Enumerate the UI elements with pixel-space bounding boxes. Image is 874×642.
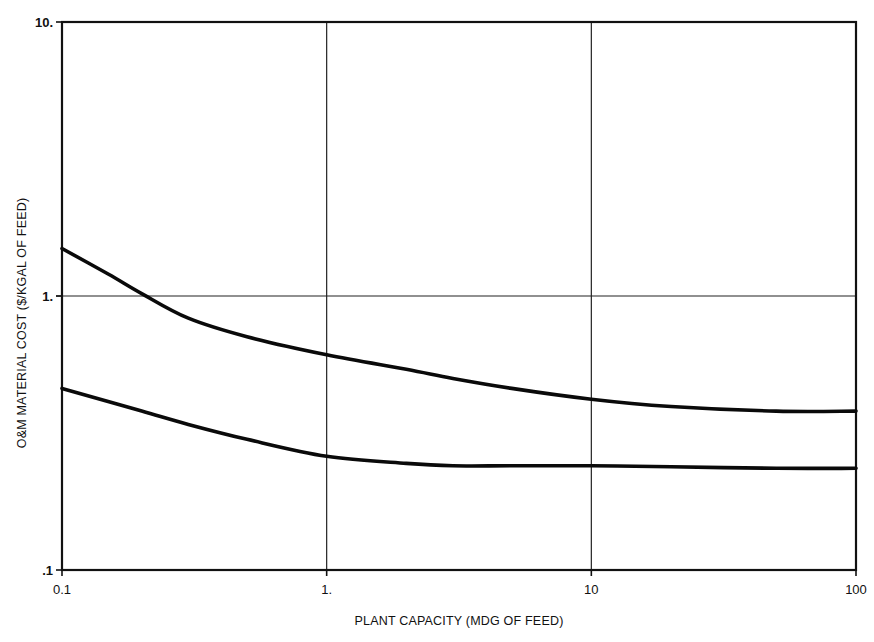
chart: 0.11.10100 .11.10. PLANT CAPACITY (MDG O… (0, 0, 874, 642)
data-series (62, 249, 856, 469)
x-axis-ticks: 0.11.10100 (53, 570, 867, 597)
x-axis-title: PLANT CAPACITY (MDG OF FEED) (354, 614, 563, 628)
x-tick-label: 10 (584, 582, 598, 597)
y-axis-ticks: .11.10. (35, 15, 62, 578)
y-tick-label: 1. (42, 289, 53, 304)
upper-curve (62, 249, 856, 412)
x-tick-label: 100 (845, 582, 867, 597)
x-tick-label: 1. (321, 582, 332, 597)
y-tick-label: .1 (42, 563, 53, 578)
lower-curve (62, 388, 856, 468)
grid-lines (56, 22, 856, 570)
y-axis-title: O&M MATERIAL COST ($/KGAL OF FEED) (15, 198, 29, 449)
y-tick-label: 10. (35, 15, 53, 30)
x-tick-label: 0.1 (53, 582, 71, 597)
